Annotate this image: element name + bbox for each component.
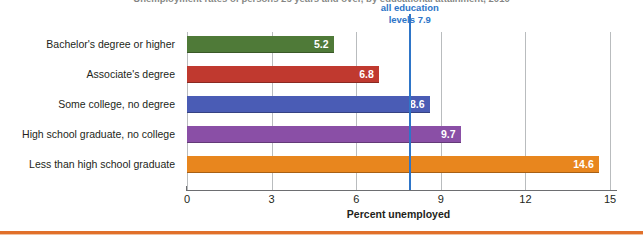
category-label: Associate's degree (0, 66, 181, 83)
chart-figure: Unemployment rates of persons 25 years a… (0, 0, 643, 242)
footer-accent-rule-shadow (0, 234, 643, 235)
bar-row: 6.8 (187, 66, 610, 83)
category-label: Some college, no degree (0, 96, 181, 113)
chart-title: Unemployment rates of persons 25 years a… (0, 0, 643, 5)
x-tick-label: 0 (167, 193, 207, 205)
bar-value-label: 8.6 (410, 96, 425, 113)
all-education-levels-reference-label-line2: levels 7.9 (335, 14, 485, 26)
bar: 9.7 (187, 126, 461, 143)
bar-value-label: 6.8 (359, 66, 374, 83)
bar-row: 9.7 (187, 126, 610, 143)
bar-value-label: 5.2 (314, 36, 329, 53)
category-label: Bachelor's degree or higher (0, 36, 181, 53)
all-education-levels-reference-label: all educationlevels 7.9 (335, 2, 485, 25)
bar: 14.6 (187, 156, 599, 173)
x-tick-label: 6 (336, 193, 376, 205)
bar: 6.8 (187, 66, 379, 83)
gridline (610, 32, 611, 190)
x-tick-label: 12 (505, 193, 545, 205)
bar: 8.6 (187, 96, 430, 113)
x-tick-label: 3 (252, 193, 292, 205)
bar-row: 8.6 (187, 96, 610, 113)
bar: 5.2 (187, 36, 334, 53)
plot-area: 5.26.88.69.714.6 (187, 32, 610, 190)
category-label: High school graduate, no college (0, 126, 181, 143)
x-tick-label: 9 (421, 193, 461, 205)
all-education-levels-reference-label-line1: all education (335, 2, 485, 14)
bar-row: 14.6 (187, 156, 610, 173)
bar-value-label: 9.7 (441, 126, 456, 143)
category-label: Less than high school graduate (0, 156, 181, 173)
x-axis-title: Percent unemployed (187, 208, 610, 220)
x-tick-label: 15 (590, 193, 630, 205)
x-axis-line (186, 190, 617, 191)
all-education-levels-reference-line (409, 14, 412, 190)
bar-value-label: 14.6 (573, 156, 593, 173)
bar-row: 5.2 (187, 36, 610, 53)
